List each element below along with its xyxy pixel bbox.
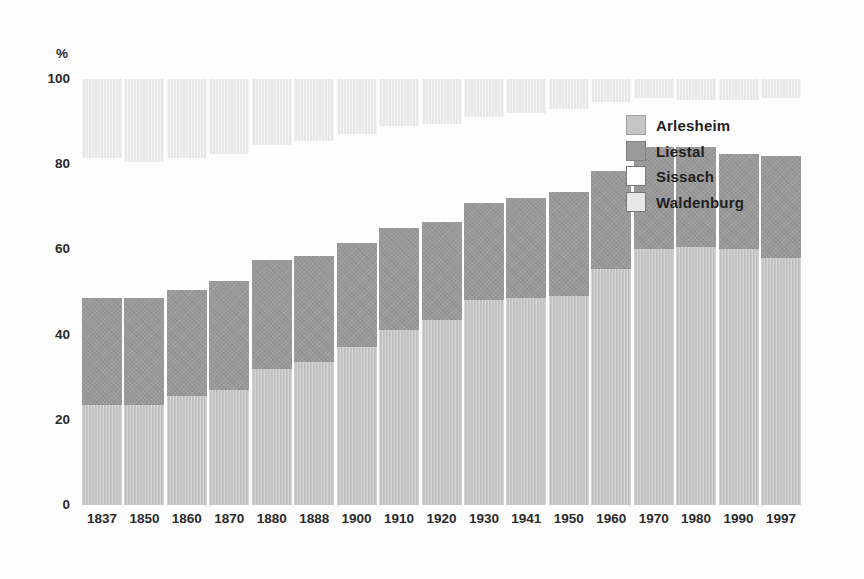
bar-1990 bbox=[719, 79, 759, 505]
y-tick-label-0: 0 bbox=[0, 498, 70, 512]
bar-segment-waldenburg-1950 bbox=[549, 79, 589, 109]
bar-1930 bbox=[464, 79, 504, 505]
y-tick-label-60: 60 bbox=[0, 242, 70, 256]
bar-segment-sissach-1997 bbox=[761, 98, 801, 156]
bar-segment-arlesheim-1850 bbox=[124, 405, 164, 505]
bar-segment-liestal-1850 bbox=[124, 298, 164, 405]
bar-segment-arlesheim-1970 bbox=[634, 249, 674, 505]
bar-segment-liestal-1910 bbox=[379, 228, 419, 330]
bar-segment-waldenburg-1870 bbox=[209, 79, 249, 154]
bar-1860 bbox=[167, 79, 207, 505]
bar-segment-sissach-1920 bbox=[422, 124, 462, 222]
bar-segment-waldenburg-1930 bbox=[464, 79, 504, 117]
bar-segment-arlesheim-1950 bbox=[549, 296, 589, 505]
bar-segment-arlesheim-1900 bbox=[337, 347, 377, 505]
bar-segment-waldenburg-1900 bbox=[337, 79, 377, 134]
bar-segment-liestal-1997 bbox=[761, 156, 801, 258]
bar-segment-arlesheim-1910 bbox=[379, 330, 419, 505]
legend-label-liestal: Liestal bbox=[656, 142, 705, 161]
bar-segment-waldenburg-1837 bbox=[82, 79, 122, 158]
bar-segment-liestal-1900 bbox=[337, 243, 377, 347]
bar-segment-arlesheim-1997 bbox=[761, 258, 801, 505]
bar-segment-sissach-1850 bbox=[124, 162, 164, 298]
bar-segment-waldenburg-1850 bbox=[124, 79, 164, 162]
bar-segment-sissach-1930 bbox=[464, 117, 504, 202]
bar-segment-liestal-1837 bbox=[82, 298, 122, 405]
bar-segment-liestal-1941 bbox=[506, 198, 546, 298]
bar-segment-arlesheim-1960 bbox=[591, 269, 631, 505]
bar-1941 bbox=[506, 79, 546, 505]
bar-1850 bbox=[124, 79, 164, 505]
bar-segment-liestal-1888 bbox=[294, 256, 334, 363]
bar-1880 bbox=[252, 79, 292, 505]
legend-swatch-liestal bbox=[626, 141, 646, 161]
bar-segment-liestal-1880 bbox=[252, 260, 292, 369]
bar-segment-arlesheim-1860 bbox=[167, 396, 207, 505]
stacked-bar-chart: % 020406080100 1837185018601870188018881… bbox=[0, 0, 864, 579]
bar-segment-waldenburg-1960 bbox=[591, 79, 631, 102]
bar-1837 bbox=[82, 79, 122, 505]
bar-segment-liestal-1920 bbox=[422, 222, 462, 320]
bar-segment-sissach-1941 bbox=[506, 113, 546, 198]
bar-1950 bbox=[549, 79, 589, 505]
bar-segment-sissach-1870 bbox=[209, 154, 249, 282]
bar-segment-waldenburg-1910 bbox=[379, 79, 419, 126]
bar-segment-sissach-1837 bbox=[82, 158, 122, 299]
bar-1920 bbox=[422, 79, 462, 505]
bar-segment-arlesheim-1837 bbox=[82, 405, 122, 505]
bar-segment-sissach-1950 bbox=[549, 109, 589, 192]
bar-segment-waldenburg-1990 bbox=[719, 79, 759, 100]
y-tick-label-80: 80 bbox=[0, 157, 70, 171]
bar-segment-waldenburg-1888 bbox=[294, 79, 334, 141]
bar-segment-waldenburg-1880 bbox=[252, 79, 292, 145]
bar-segment-arlesheim-1941 bbox=[506, 298, 546, 505]
bar-1888 bbox=[294, 79, 334, 505]
y-tick-label-100: 100 bbox=[0, 72, 70, 86]
bar-segment-arlesheim-1920 bbox=[422, 320, 462, 505]
bar-segment-arlesheim-1888 bbox=[294, 362, 334, 505]
bar-segment-waldenburg-1980 bbox=[676, 79, 716, 100]
bar-segment-arlesheim-1990 bbox=[719, 249, 759, 505]
legend-label-waldenburg: Waldenburg bbox=[656, 193, 744, 212]
legend-swatch-waldenburg bbox=[626, 192, 646, 212]
legend-label-arlesheim: Arlesheim bbox=[656, 116, 730, 135]
y-tick-label-20: 20 bbox=[0, 413, 70, 427]
bar-segment-arlesheim-1930 bbox=[464, 300, 504, 504]
bar-segment-waldenburg-1860 bbox=[167, 79, 207, 158]
bar-1900 bbox=[337, 79, 377, 505]
bar-segment-waldenburg-1920 bbox=[422, 79, 462, 124]
bar-segment-waldenburg-1997 bbox=[761, 79, 801, 98]
bar-segment-liestal-1930 bbox=[464, 203, 504, 301]
bar-1870 bbox=[209, 79, 249, 505]
y-axis-unit-label: % bbox=[0, 46, 68, 61]
bar-segment-sissach-1900 bbox=[337, 134, 377, 243]
x-tick-label-1997: 1997 bbox=[751, 511, 811, 526]
bar-segment-sissach-1880 bbox=[252, 145, 292, 260]
legend-swatch-sissach bbox=[626, 166, 646, 186]
bar-segment-liestal-1950 bbox=[549, 192, 589, 296]
bar-segment-waldenburg-1941 bbox=[506, 79, 546, 113]
legend-label-sissach: Sissach bbox=[656, 167, 714, 186]
bar-segment-arlesheim-1870 bbox=[209, 390, 249, 505]
bar-segment-arlesheim-1880 bbox=[252, 369, 292, 505]
bar-segment-liestal-1870 bbox=[209, 281, 249, 390]
bar-segment-sissach-1910 bbox=[379, 126, 419, 228]
bar-segment-sissach-1860 bbox=[167, 158, 207, 290]
bar-segment-waldenburg-1970 bbox=[634, 79, 674, 98]
bar-segment-sissach-1888 bbox=[294, 141, 334, 256]
y-tick-label-40: 40 bbox=[0, 328, 70, 342]
bar-1997 bbox=[761, 79, 801, 505]
legend-swatch-arlesheim bbox=[626, 115, 646, 135]
bar-segment-arlesheim-1980 bbox=[676, 247, 716, 505]
bar-1910 bbox=[379, 79, 419, 505]
bar-segment-liestal-1860 bbox=[167, 290, 207, 397]
